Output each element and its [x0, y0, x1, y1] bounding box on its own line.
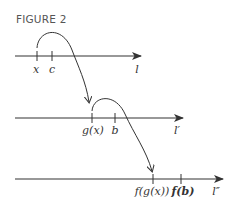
number-line-l: x c l — [15, 51, 141, 76]
composition-figure: FIGURE 2 x c l g(x) b l′ — [0, 0, 234, 212]
line-label-l-prime: l′ — [174, 124, 181, 137]
label-c: c — [49, 63, 55, 76]
label-g-of-x: g(x) — [82, 124, 104, 137]
number-line-l-double-prime: f(g(x)) f(b) l″ — [15, 174, 223, 198]
diagram-canvas: x c l g(x) b l′ f(g(x)) f(b) l″ — [0, 0, 234, 212]
label-b: b — [111, 124, 118, 137]
number-line-l-prime: g(x) b l′ — [15, 113, 183, 137]
mapping-arrow-g — [37, 32, 89, 102]
line-label-l: l — [135, 63, 139, 76]
label-f-of-b: f(b) — [171, 185, 195, 198]
label-f-of-g-of-x: f(g(x)) — [134, 185, 169, 198]
label-x: x — [33, 63, 40, 76]
line-label-l-double-prime: l″ — [212, 185, 221, 198]
